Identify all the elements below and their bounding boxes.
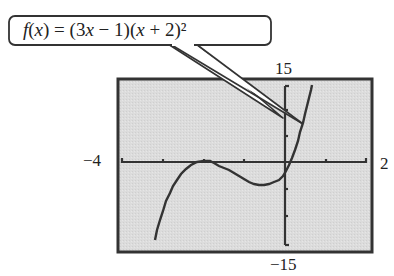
equation-text: f(x) = (3x − 1)(x + 2)²: [23, 19, 186, 41]
variable: x: [85, 19, 93, 40]
variable: x: [35, 19, 43, 40]
xmax-label: 2: [380, 155, 389, 172]
equals-segment: ) = (3: [43, 19, 85, 40]
ymin-label: −15: [270, 256, 297, 273]
factor-segment: + 2)²: [145, 19, 187, 40]
equation-label: f(x) = (3x − 1)(x + 2)²: [9, 16, 270, 44]
ymax-label: 15: [275, 60, 292, 77]
xmin-label: −4: [83, 152, 101, 169]
factor-segment: − 1)(: [94, 19, 136, 40]
graph-screen: [118, 79, 372, 252]
variable: x: [136, 19, 144, 40]
